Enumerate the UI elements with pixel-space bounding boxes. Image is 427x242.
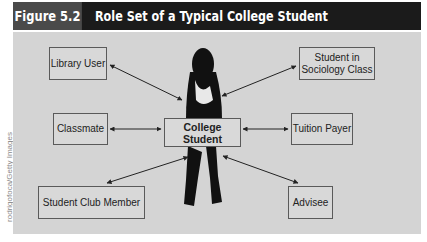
center-box-college-student: College Student	[164, 118, 241, 147]
role-box-library-user: Library User	[49, 47, 107, 80]
role-box-advisee: Advisee	[288, 186, 333, 219]
arrow-advisee	[223, 156, 298, 183]
center-label-line1: College	[184, 121, 222, 133]
role-label-line1: Student in	[314, 52, 359, 64]
role-label-line2: Sociology Class	[301, 64, 372, 76]
arrow-sociology-class	[222, 66, 296, 96]
center-label-line2: Student	[183, 133, 222, 145]
arrow-student-club	[107, 157, 188, 183]
role-box-student-club-member: Student Club Member	[38, 186, 145, 219]
role-label: Classmate	[57, 123, 104, 135]
role-label: Tuition Payer	[293, 123, 352, 135]
role-label: Student Club Member	[43, 197, 140, 209]
role-label: Library User	[51, 58, 105, 70]
role-box-classmate: Classmate	[53, 113, 108, 145]
role-box-sociology-student: Student in Sociology Class	[299, 47, 375, 80]
arrow-library-user	[110, 65, 182, 100]
role-box-tuition-payer: Tuition Payer	[291, 113, 353, 145]
role-label: Advisee	[293, 197, 329, 209]
